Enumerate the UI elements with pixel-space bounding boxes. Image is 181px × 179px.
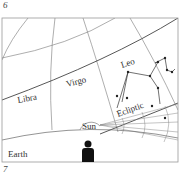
label-sun: Sun: [82, 121, 97, 131]
meridian-line-1: [2, 18, 28, 60]
label-leo: Leo: [120, 56, 137, 70]
label-earth: Earth: [8, 149, 28, 159]
person-silhouette-icon: [82, 141, 94, 163]
label-libra: Libra: [17, 92, 38, 105]
page-number-bottom: 7: [3, 164, 8, 174]
label-ecliptic: Ecliptic: [115, 100, 145, 119]
meridian-line-3: [83, 18, 118, 132]
latitude-arc: [2, 18, 115, 58]
label-virgo: Virgo: [65, 74, 88, 89]
ecliptic-diagram: Libra Virgo Leo Ecliptic Sun Earth: [0, 0, 181, 179]
meridian-line-2: [51, 18, 55, 130]
celestial-arc: [2, 18, 178, 100]
